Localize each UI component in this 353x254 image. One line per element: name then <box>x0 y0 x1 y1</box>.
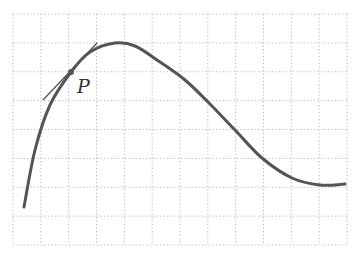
curve <box>24 43 345 207</box>
dotted-grid <box>13 14 347 245</box>
diagram-canvas <box>0 0 353 254</box>
point-p-label: P <box>77 75 90 97</box>
point-p <box>68 69 74 75</box>
